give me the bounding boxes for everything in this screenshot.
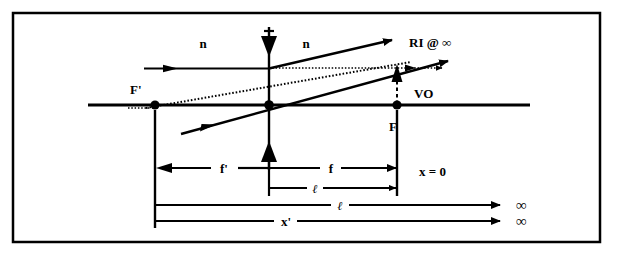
- dimension-x-prime-infinity-label: ∞: [516, 213, 527, 229]
- dimension-ell-lower-infinity-label: ∞: [516, 197, 527, 213]
- focal-point-right-label: F: [389, 119, 397, 134]
- medium-index-left-label: n: [199, 36, 207, 51]
- x-origin-label: x = 0: [419, 164, 446, 179]
- lens-center-dot: [264, 100, 274, 110]
- virtual-object-label: VO: [414, 86, 433, 101]
- optics-ray-diagram-figure: f' f ℓ ℓ ∞ x' ∞ n n: [0, 0, 618, 259]
- dimension-ell-upper-label: ℓ: [312, 182, 317, 196]
- dimension-f-prime-label: f': [220, 161, 228, 176]
- medium-index-right-label: n: [302, 36, 310, 51]
- focal-point-left-label: F': [130, 82, 142, 97]
- dimension-ell-lower-label: ℓ: [337, 199, 342, 213]
- real-image-at-infinity-label: RI @ ∞: [409, 35, 451, 50]
- diagram-canvas: f' f ℓ ℓ ∞ x' ∞ n n: [0, 0, 618, 259]
- dimension-x-prime-label: x': [281, 214, 291, 229]
- focal-point-left-dot: [150, 100, 159, 109]
- dimension-f-label: f: [329, 161, 334, 176]
